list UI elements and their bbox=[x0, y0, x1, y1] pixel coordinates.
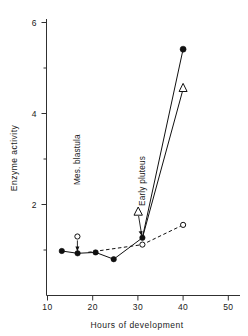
open-circle-marker bbox=[140, 242, 145, 247]
dashed-series-line bbox=[88, 225, 183, 252]
filled-circle-marker bbox=[111, 257, 116, 262]
y-tick-label-6: 6 bbox=[32, 18, 37, 28]
x-axis-title: Hours of development bbox=[90, 320, 183, 330]
open-circle-marker bbox=[181, 222, 186, 227]
early-pluteus-label: Early pluteus bbox=[138, 156, 147, 206]
early-pluteus-arrowhead bbox=[139, 231, 143, 236]
series-solid-open-triangle bbox=[142, 83, 187, 238]
y-tick-label-4: 4 bbox=[32, 109, 37, 119]
x-axis-tick-labels: 10 20 30 40 50 bbox=[42, 302, 233, 312]
early-pluteus-leader-line bbox=[139, 216, 142, 233]
mes-blastula-label: Mes. blastula bbox=[73, 134, 82, 185]
series-dashed-open-circle bbox=[88, 222, 186, 252]
x-axis-ticks bbox=[48, 296, 229, 301]
y-axis-tick-labels: 6 4 2 bbox=[32, 18, 37, 210]
filled-circle-marker bbox=[93, 250, 98, 255]
enzyme-activity-line-chart: 6 4 2 10 20 30 40 50 Hours of developmen… bbox=[0, 0, 248, 336]
annotation-mes-blastula: Mes. blastula bbox=[73, 134, 82, 252]
filled-circle-marker bbox=[180, 46, 186, 52]
x-tick-label-10: 10 bbox=[42, 302, 52, 312]
filled-circle-marker bbox=[75, 251, 80, 256]
y-axis-ticks bbox=[42, 23, 47, 251]
mes-blastula-open-circle-icon bbox=[75, 234, 80, 239]
x-tick-label-20: 20 bbox=[88, 302, 98, 312]
x-tick-label-50: 50 bbox=[223, 302, 233, 312]
open-triangle-marker bbox=[179, 83, 187, 91]
filled-circle-marker bbox=[140, 235, 145, 240]
chart-figure: 6 4 2 10 20 30 40 50 Hours of developmen… bbox=[0, 0, 248, 336]
triangle-series-line bbox=[142, 89, 183, 238]
early-pluteus-open-triangle-icon bbox=[134, 207, 142, 215]
y-tick-label-2: 2 bbox=[32, 200, 37, 210]
y-axis-title: Enzyme activity bbox=[9, 124, 19, 191]
x-tick-label-30: 30 bbox=[133, 302, 143, 312]
x-tick-label-40: 40 bbox=[178, 302, 188, 312]
filled-circle-marker bbox=[59, 248, 64, 253]
